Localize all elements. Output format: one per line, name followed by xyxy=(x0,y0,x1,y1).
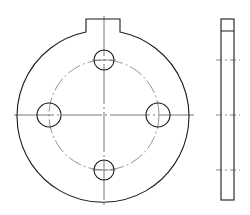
side-view xyxy=(216,19,240,200)
outer-contour xyxy=(17,19,189,202)
technical-drawing xyxy=(0,0,250,215)
front-view xyxy=(14,16,194,206)
side-view-outline xyxy=(221,19,234,200)
